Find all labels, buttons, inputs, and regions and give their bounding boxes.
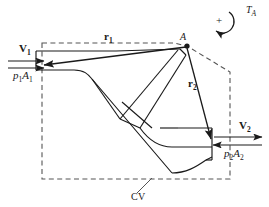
point-a-label: A [180, 32, 186, 42]
control-volume-label: CV [131, 192, 146, 202]
inlet-velocity-label: V1 [19, 43, 31, 54]
position-vector-r2-label: r2 [188, 78, 197, 89]
inlet-velocity-subscript: 1 [27, 48, 31, 57]
outlet-velocity-subscript: 2 [247, 125, 251, 134]
position-vector-r2-arrow [187, 48, 211, 139]
diagram-vector-graphics [0, 0, 269, 207]
control-volume-boundary [42, 43, 230, 179]
r2-subscript: 2 [193, 83, 197, 92]
position-vector-r1-label: r1 [104, 31, 113, 42]
outlet-pressure-sub1: 2 [230, 153, 234, 162]
point-a-marker [184, 43, 189, 48]
position-vector-r1-arrow [44, 47, 186, 65]
torque-sign-label: + [216, 15, 222, 26]
inlet-pressure-force-label: p1A1 [13, 70, 33, 81]
outlet-pressure-force-label: p2A2 [224, 148, 244, 159]
inlet-pressure-sub2: 1 [29, 75, 33, 84]
duct-body [36, 49, 212, 173]
torque-subscript: A [252, 9, 257, 18]
outlet-velocity-label: V2 [239, 120, 251, 131]
figure-canvas: V1 p1A1 V2 p2A2 r1 r2 A TA + CV [0, 0, 269, 207]
r1-subscript: 1 [109, 36, 113, 45]
inlet-pressure-sub1: 1 [19, 75, 23, 84]
torque-label: TA [246, 5, 256, 15]
outlet-pressure-sub2: 2 [240, 153, 244, 162]
